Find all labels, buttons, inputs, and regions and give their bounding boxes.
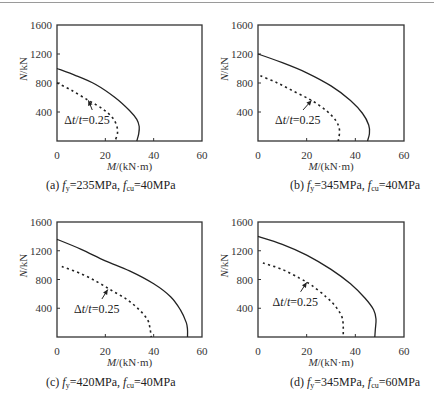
y-tick-label: 400 bbox=[237, 302, 254, 314]
y-tick-label: 800 bbox=[237, 274, 254, 286]
y-tick-label: 1600 bbox=[231, 216, 254, 228]
x-axis-label: M/(kN·m) bbox=[307, 356, 354, 369]
panel-caption-d: (d) fy=345MPa, fcu=60MPa bbox=[290, 375, 420, 390]
plot-frame bbox=[258, 222, 404, 337]
y-tick-label: 1200 bbox=[231, 245, 254, 257]
figure-caption-faint: faint, cut-off figure caption line bbox=[70, 403, 370, 411]
annotation-label: Δt/t=0.25 bbox=[273, 295, 319, 309]
x-tick-label: 60 bbox=[399, 345, 411, 357]
chart-svg-d: 400800120016000204060M/(kN·m)N/kNΔt/t=0.… bbox=[0, 0, 434, 413]
y-axis-label: N/kN bbox=[218, 254, 230, 279]
curve-intact bbox=[258, 236, 376, 337]
x-tick-label: 0 bbox=[255, 345, 261, 357]
